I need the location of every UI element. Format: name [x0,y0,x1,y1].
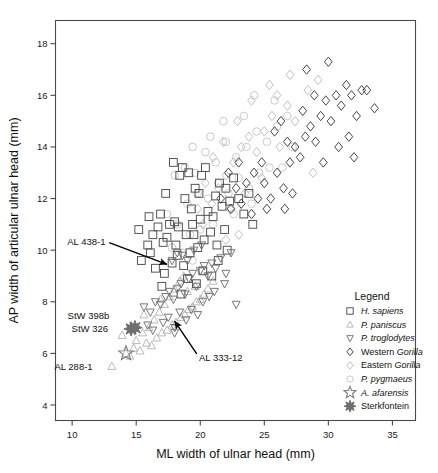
annotation-label-al-438-1: AL 438-1 [67,236,105,247]
data-point [135,226,143,234]
data-point [348,91,356,100]
data-point [201,164,209,172]
data-point [335,142,343,151]
data-point [342,80,350,89]
data-point [169,159,177,167]
data-point [268,111,276,120]
data-point [344,386,356,397]
data-point [171,330,179,337]
data-point [258,158,266,167]
annotation-label-al-288-1: AL 288-1 [54,361,92,372]
data-point [347,321,353,327]
data-point [281,204,289,213]
data-point [249,220,257,228]
data-point [209,153,217,162]
annotation-label-stw-398b: StW 398b [68,310,110,321]
legend-label-p-paniscus: P. paniscus [361,320,407,330]
y-tick-label: 16 [37,90,48,101]
y-tick-label: 6 [42,348,47,359]
y-axis: 4681012141618AP width of articular ulnar… [7,38,56,410]
data-point [137,257,145,265]
y-tick-label: 8 [42,296,47,307]
data-point [347,336,353,342]
x-axis: 101520253035ML width of ulnar head (mm) [67,421,398,461]
data-point [344,400,356,412]
data-point [222,171,230,180]
data-point [312,137,320,146]
data-point [286,70,294,79]
data-point [217,255,225,262]
data-point [230,158,238,167]
data-point [128,320,142,334]
data-point [166,220,174,228]
data-point [207,133,215,141]
y-tick-label: 4 [42,400,47,411]
data-point [253,128,261,136]
data-point [232,301,240,308]
data-point [273,168,281,177]
legend-label-western-gorilla: Western Gorilla [361,347,423,357]
data-point [159,319,167,326]
data-point [213,241,221,249]
data-point [209,221,217,229]
data-point [263,204,271,213]
data-point [266,80,274,89]
data-point [164,314,172,321]
x-tick-label: 35 [387,429,398,440]
data-point [284,137,292,146]
x-axis-title: ML width of ulnar head (mm) [156,447,315,461]
data-point [189,220,197,228]
data-point [291,116,299,125]
data-point [317,111,325,120]
data-point [235,230,243,239]
data-point [144,241,152,249]
data-point [289,189,297,198]
data-point [154,223,162,231]
data-point [263,138,271,146]
data-point [130,344,138,351]
data-point [314,75,322,84]
data-point [248,200,256,208]
data-point [200,236,208,244]
data-point [253,147,261,156]
data-point [304,85,312,94]
data-point [322,96,330,105]
series-p-pygmaeus [163,92,296,275]
data-point [189,143,197,151]
data-point [271,127,279,136]
data-point [153,334,161,341]
data-point [303,65,311,74]
data-point [280,184,288,193]
data-point [199,220,207,229]
data-point [337,101,345,110]
data-point [221,281,229,288]
data-point [204,208,212,216]
data-point [132,336,140,343]
data-point [232,184,240,193]
data-point [347,376,353,382]
legend-label-p-troglodytes: P. troglodytes [361,333,415,343]
data-point [273,91,281,100]
data-point [235,174,243,182]
data-point [217,194,225,203]
data-point [284,112,292,120]
data-point [209,213,217,221]
data-point [243,178,251,187]
annotation-arrow [109,243,167,265]
data-point [299,106,307,115]
data-point [347,348,353,356]
data-point [202,148,210,156]
data-point [353,111,361,120]
data-point [162,190,170,198]
data-point [350,153,358,162]
legend-label-eastern-gorilla: Eastern Gorilla [361,360,421,370]
data-point [332,91,340,100]
data-point [155,308,163,315]
data-point [152,264,160,272]
data-point [371,104,379,113]
x-tick-label: 15 [131,429,142,440]
data-point [301,132,309,141]
annotation-label-al-333-12: AL 333-12 [199,352,243,363]
data-point [108,362,116,369]
data-point [149,231,157,239]
